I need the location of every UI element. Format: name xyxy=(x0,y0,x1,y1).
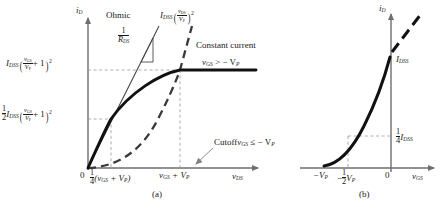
panel-a-ohmic-label: Ohmic xyxy=(106,11,131,20)
panel-a-slope-rds-label: 1 RDS xyxy=(118,27,129,45)
panel-a-x-tick-origin: 0 xyxy=(80,171,85,180)
drain-characteristic-curve xyxy=(88,70,256,168)
panel-b-quarter-idss-label: 14IDSS xyxy=(396,128,413,146)
panel-b-x-axis-label: vGS xyxy=(412,172,423,182)
figure-container: iD vDS Ohmic Constant current 1 RDS IDSS… xyxy=(0,0,446,214)
panel-a-guide-lines xyxy=(88,70,180,168)
transfer-extrapolation-dashed xyxy=(392,14,421,52)
panel-a-y-axis-label: iD xyxy=(76,6,83,16)
panel-b-idss-label: IDSS xyxy=(396,55,409,65)
panel-a-x-tick-knee: vGS + VP xyxy=(159,171,189,181)
cutoff-leader-arrow xyxy=(196,148,213,164)
panel-b-caption: (b) xyxy=(359,190,370,199)
panel-b-x-tick-vp: −VP xyxy=(313,171,328,181)
figure-graphics xyxy=(0,0,446,214)
panel-b-x-tick-zero: 0 xyxy=(385,171,390,180)
panel-a-caption: (a) xyxy=(152,190,162,199)
transfer-characteristic-curve xyxy=(324,57,390,166)
panel-b-y-axis-label: iD xyxy=(379,4,386,14)
panel-a-constant-current-label: Constant current xyxy=(196,41,256,50)
panel-b-x-tick-half-vp: −12VP xyxy=(337,169,355,187)
panel-a-parabola-equation-label: IDSS(vDSVP)2 xyxy=(160,8,194,24)
panel-a-vgs-condition-label: vGS > − VP xyxy=(202,58,240,68)
panel-a-half-saturation-current-label: 12IDSS(vGSVP+ 1)2 xyxy=(2,105,52,123)
panel-a-saturation-current-label: IDSS(vGSVP+ 1)2 xyxy=(6,56,52,72)
parabola-curve-dashed xyxy=(88,26,192,168)
panel-b-axes xyxy=(300,14,434,172)
panel-a-x-axis-label: vDS xyxy=(232,172,243,182)
panel-a-cutoff-label: CutoffvGS ≤ − VP xyxy=(214,138,275,148)
slope-triangle xyxy=(141,38,153,62)
panel-a-x-tick-quarter: 14(vGS + VP) xyxy=(90,169,130,187)
